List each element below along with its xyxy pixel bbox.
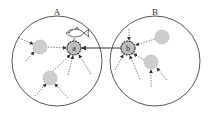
- hub-node-a: a: [67, 41, 81, 55]
- peer-node: [43, 71, 57, 85]
- peer-node: [33, 40, 47, 54]
- peer-node: [144, 55, 158, 69]
- region-a-label: A: [54, 7, 61, 17]
- network-diagram: A B a b: [0, 0, 217, 115]
- region-b-label: B: [152, 7, 158, 17]
- fish-icon: [66, 27, 89, 41]
- hub-node-b: b: [121, 41, 135, 55]
- peer-nodes: [33, 30, 169, 85]
- hub-b-label: b: [126, 44, 130, 53]
- hub-a-label: a: [72, 44, 76, 53]
- peer-node: [155, 30, 169, 44]
